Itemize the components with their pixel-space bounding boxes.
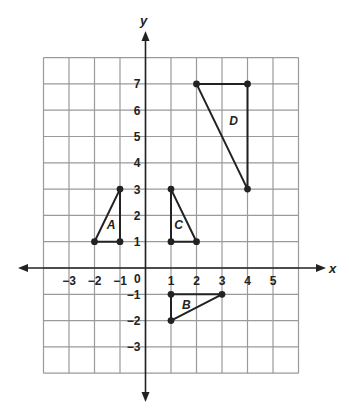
x-axis-left-arrow-icon: [18, 264, 28, 272]
vertex-point: [168, 186, 175, 193]
vertex-point: [168, 238, 175, 245]
vertex-point: [244, 81, 251, 88]
y-tick-label: 2: [134, 209, 141, 223]
y-axis-down-arrow-icon: [142, 392, 150, 402]
vertex-point: [117, 238, 124, 245]
y-axis-label: y: [139, 13, 148, 28]
x-tick-label: −2: [88, 274, 102, 288]
vertex-point: [193, 238, 200, 245]
vertex-point: [117, 186, 124, 193]
y-tick-label: 4: [134, 156, 141, 170]
triangle-label: A: [106, 218, 116, 232]
vertex-point: [168, 317, 175, 324]
coordinate-plane: −3−2−1123457654321−1−2−3 ABCD x y 0: [0, 0, 349, 408]
origin-label: 0: [134, 272, 141, 286]
y-tick-label: −1: [127, 288, 141, 302]
y-tick-label: 5: [134, 130, 141, 144]
x-tick-label: −1: [113, 274, 127, 288]
triangle-label: C: [174, 218, 183, 232]
x-tick-label: −3: [62, 274, 76, 288]
coordinate-plane-figure: −3−2−1123457654321−1−2−3 ABCD x y 0: [0, 0, 349, 408]
vertex-point: [244, 186, 251, 193]
x-tick-label: 3: [219, 274, 226, 288]
vertex-point: [168, 291, 175, 298]
triangle-label: D: [229, 114, 238, 128]
y-tick-label: 1: [134, 235, 141, 249]
vertex-point: [193, 81, 200, 88]
triangle-label: B: [182, 298, 191, 312]
x-tick-label: 4: [244, 274, 251, 288]
vertex-point: [219, 291, 226, 298]
y-tick-label: 3: [134, 183, 141, 197]
vertex-point: [91, 238, 98, 245]
y-tick-label: −2: [127, 314, 141, 328]
y-tick-label: −3: [127, 340, 141, 354]
y-tick-label: 7: [134, 77, 141, 91]
x-tick-label: 5: [270, 274, 277, 288]
x-tick-label: 1: [168, 274, 175, 288]
y-axis-up-arrow-icon: [142, 31, 150, 41]
x-axis-right-arrow-icon: [316, 264, 326, 272]
x-axis-label: x: [328, 261, 337, 276]
y-tick-label: 6: [134, 104, 141, 118]
x-tick-label: 2: [193, 274, 200, 288]
